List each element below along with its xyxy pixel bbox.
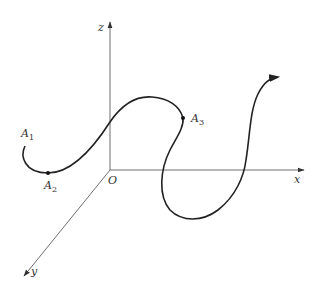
space-curve-diagram: z x y O A1 A2 A3 <box>0 0 319 293</box>
point-a3-label: A3 <box>190 112 204 127</box>
z-axis-label: z <box>97 21 104 34</box>
space-curve <box>23 77 278 219</box>
point-a2-label: A2 <box>43 179 57 194</box>
y-axis-label: y <box>30 265 38 278</box>
point-a2-marker <box>46 171 50 175</box>
point-a1-label: A1 <box>20 127 34 142</box>
x-axis-label: x <box>294 173 301 186</box>
point-a3-marker <box>181 116 185 120</box>
y-axis <box>24 170 110 276</box>
origin-label: O <box>108 174 117 187</box>
